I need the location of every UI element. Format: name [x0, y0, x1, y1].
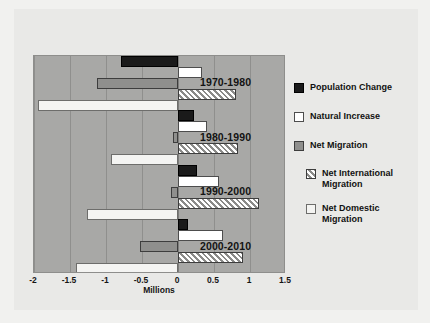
bar-netdom-1990-2000 [87, 209, 178, 220]
group-label-1970-1980: 1970-1980 [200, 76, 251, 88]
bar-netmig-2000-2010 [140, 241, 178, 252]
legend-swatch-netdom-icon [306, 204, 316, 214]
x-tick-label: -1 [101, 275, 109, 285]
bar-netmig-1970-1980 [97, 78, 178, 89]
legend-item-netmig[interactable]: Net Migration [294, 140, 368, 151]
x-axis-label: Millions [33, 285, 285, 295]
x-tick-label: 1.5 [279, 275, 291, 285]
legend-label: Population Change [310, 82, 392, 93]
legend-label: Net International Migration [322, 168, 420, 190]
x-tick-label: 0 [175, 275, 180, 285]
bar-netdom-2000-2010 [76, 263, 178, 273]
bar-netmig-1990-2000 [171, 187, 178, 198]
x-tick-label: -2 [29, 275, 37, 285]
x-tick-label: 1 [247, 275, 252, 285]
bar-netdom-1980-1990 [111, 154, 178, 165]
bar-netmig-1980-1990 [173, 132, 178, 143]
legend-item-netintl[interactable]: Net International Migration [306, 168, 420, 190]
group-label-1990-2000: 1990-2000 [200, 185, 251, 197]
bar-popchange-1990-2000 [178, 165, 197, 176]
legend-label: Natural Increase [310, 111, 380, 122]
legend-item-popchange[interactable]: Population Change [294, 82, 392, 93]
gridline [70, 56, 71, 272]
legend-label: Net Domestic Migration [322, 203, 420, 225]
legend-swatch-natural-icon [294, 112, 304, 122]
bar-popchange-2000-2010 [178, 219, 188, 230]
group-label-1980-1990: 1980-1990 [200, 131, 251, 143]
legend-item-netdom[interactable]: Net Domestic Migration [306, 203, 420, 225]
bar-netintl-1980-1990 [178, 143, 238, 154]
bar-natural-1970-1980 [178, 67, 202, 78]
chart-figure: 1970-19801980-19901990-20002000-2010 -2-… [0, 0, 430, 323]
x-tick-label: 0.5 [207, 275, 219, 285]
legend-swatch-netintl-icon [306, 169, 316, 179]
gridline [34, 56, 35, 272]
x-tick-label: -1.5 [62, 275, 77, 285]
bar-netdom-1970-1980 [38, 100, 178, 111]
bar-netintl-2000-2010 [178, 252, 243, 263]
bar-netintl-1990-2000 [178, 198, 259, 209]
bar-popchange-1980-1990 [178, 110, 194, 121]
legend-swatch-netmig-icon [294, 141, 304, 151]
legend-swatch-popchange-icon [294, 83, 304, 93]
legend-item-natural[interactable]: Natural Increase [294, 111, 380, 122]
group-label-2000-2010: 2000-2010 [200, 240, 251, 252]
x-tick-label: -0.5 [134, 275, 149, 285]
bar-popchange-1970-1980 [121, 56, 178, 67]
bar-netintl-1970-1980 [178, 89, 236, 100]
legend-label: Net Migration [310, 140, 368, 151]
